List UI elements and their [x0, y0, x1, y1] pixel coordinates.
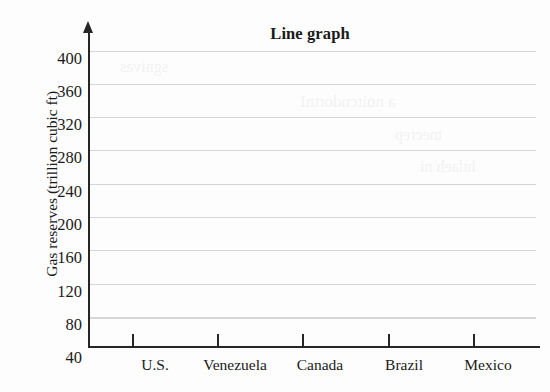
x-tick-mark-canada	[302, 334, 304, 346]
gridline-160	[88, 250, 536, 251]
x-tick-mark-venezuela	[217, 334, 219, 346]
gridline-320	[88, 117, 536, 118]
gridline-400	[88, 51, 536, 52]
gridline-120	[88, 284, 536, 285]
gridline-240	[88, 184, 536, 185]
gridline-280	[88, 150, 536, 151]
y-tick-label: 40	[38, 350, 82, 367]
x-tick-mark-mexico	[473, 334, 475, 346]
x-axis-line	[88, 346, 540, 348]
x-tick-mark-us	[132, 334, 134, 346]
x-tick-label-mexico: Mexico	[464, 357, 511, 373]
x-tick-label-us: U.S.	[141, 357, 169, 373]
gridline-40	[88, 318, 536, 319]
gridline-360	[88, 84, 536, 85]
x-tick-label-canada: Canada	[297, 357, 343, 373]
x-tick-label-brazil: Brazil	[385, 357, 423, 373]
x-tick-mark-brazil	[388, 334, 390, 346]
line-graph-figure: a noitcudortnI sgnivas tnecrep htlaeh ni…	[0, 0, 550, 392]
y-axis-line	[88, 30, 90, 348]
gridline-200	[88, 217, 536, 218]
x-tick-label-venezuela: Venezuela	[203, 357, 267, 373]
y-axis-title-container: Gas reserves (trillion cubic ft)	[22, 0, 42, 392]
plot-area	[88, 24, 540, 347]
y-axis-title: Gas reserves (trillion cubic ft)	[44, 34, 60, 334]
